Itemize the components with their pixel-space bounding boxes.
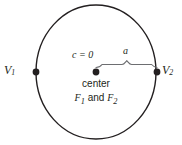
circle-diagram: V1 V2 c = 0 a center F1 and F2	[0, 0, 182, 145]
vertex-point-v2	[154, 69, 161, 76]
center-caption: center	[0, 79, 182, 89]
foci-conjunction: and	[85, 92, 107, 103]
foci-caption: F1 and F2	[0, 93, 182, 106]
eccentricity-label: c = 0	[72, 50, 93, 60]
vertex-label-v2-subscript: 2	[169, 68, 173, 77]
center-point	[93, 69, 100, 76]
semi-axis-label: a	[123, 46, 128, 56]
vertex-point-v1	[33, 69, 40, 76]
diagram-canvas	[0, 0, 182, 145]
brace-semi-major-axis	[96, 61, 157, 68]
vertex-label-v1-subscript: 1	[11, 68, 15, 77]
vertex-label-v2: V2	[162, 64, 173, 77]
vertex-label-v1: V1	[4, 64, 15, 77]
focus-label-f2-subscript: 2	[113, 97, 117, 106]
